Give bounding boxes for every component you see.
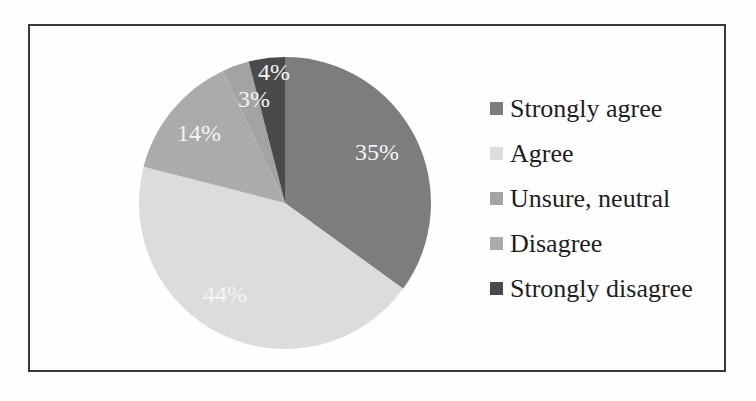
legend-label: Disagree <box>510 229 602 259</box>
legend-swatch <box>490 237 503 250</box>
legend-label: Strongly agree <box>510 94 662 124</box>
legend-item-unsure: Unsure, neutral <box>490 176 693 221</box>
legend-swatch <box>490 192 503 205</box>
legend-label: Strongly disagree <box>510 274 693 304</box>
legend-item-strongly-disagree: Strongly disagree <box>490 266 693 311</box>
pie-slices <box>139 57 431 349</box>
legend-item-agree: Agree <box>490 131 693 176</box>
legend-swatch <box>490 102 503 115</box>
legend-swatch <box>490 282 503 295</box>
legend-label: Unsure, neutral <box>510 184 670 214</box>
label-unsure: 3% <box>238 86 270 112</box>
legend-item-disagree: Disagree <box>490 221 693 266</box>
legend-item-strongly-agree: Strongly agree <box>490 86 693 131</box>
legend-label: Agree <box>510 139 574 169</box>
label-strongly-agree: 35% <box>355 139 399 165</box>
label-strongly-disagree: 4% <box>258 59 290 85</box>
legend: Strongly agree Agree Unsure, neutral Dis… <box>490 86 693 311</box>
legend-swatch <box>490 147 503 160</box>
label-agree: 44% <box>203 281 247 307</box>
label-disagree: 14% <box>177 120 221 146</box>
